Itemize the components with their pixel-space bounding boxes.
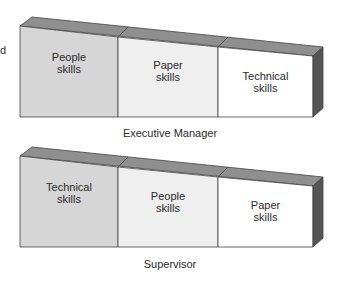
executive-manager-caption: Executive Manager <box>100 127 240 139</box>
segment-label-line1: Technical <box>20 181 118 193</box>
segment-label-line1: Paper <box>218 199 313 211</box>
segment-label-line1: Technical <box>218 70 313 82</box>
segment-label-line2: skills <box>218 211 313 223</box>
segment-label-line1: People <box>20 51 118 63</box>
segment-label: Paper skills <box>118 59 218 83</box>
segment-label-line2: skills <box>118 202 218 214</box>
segment-label: Paper skills <box>218 199 313 223</box>
segment-label-line2: skills <box>118 71 218 83</box>
segment-label-line1: Paper <box>118 59 218 71</box>
segment-label: People skills <box>118 190 218 214</box>
segment-label: Technical skills <box>218 70 313 94</box>
segment-label-line2: skills <box>218 82 313 94</box>
skills-diagram-graphic <box>0 0 340 281</box>
segment-label-line1: People <box>118 190 218 202</box>
side-face <box>313 47 323 117</box>
segment-label-line2: skills <box>20 63 118 75</box>
segment-label-line2: skills <box>20 193 118 205</box>
side-face <box>313 177 323 247</box>
segment-label: People skills <box>20 51 118 75</box>
segment-label: Technical skills <box>20 181 118 205</box>
supervisor-caption: Supervisor <box>100 258 240 270</box>
